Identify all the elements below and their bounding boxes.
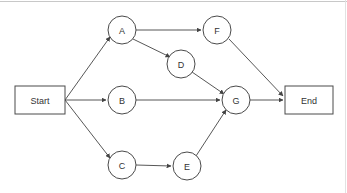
node-C[interactable]: C <box>108 151 136 179</box>
flow-diagram-svg: StartAFDBGCEEnd <box>0 0 347 193</box>
edge-start-to-C <box>65 100 110 158</box>
edge-D-to-G <box>192 72 224 94</box>
node-A[interactable]: A <box>108 16 136 44</box>
node-start[interactable]: Start <box>15 86 65 114</box>
node-label-F: F <box>214 26 220 36</box>
node-label-C: C <box>119 161 126 171</box>
node-label-G: G <box>232 96 239 106</box>
node-D[interactable]: D <box>167 50 195 78</box>
nodes-layer: StartAFDBGCEEnd <box>15 16 333 180</box>
node-end[interactable]: End <box>285 86 333 114</box>
node-label-D: D <box>178 60 185 70</box>
flow-diagram-canvas: StartAFDBGCEEnd <box>0 0 347 193</box>
edge-E-to-G <box>196 110 226 156</box>
node-label-start: Start <box>30 96 50 106</box>
node-label-end: End <box>301 96 317 106</box>
edge-C-to-E <box>136 165 171 166</box>
node-G[interactable]: G <box>222 86 250 114</box>
node-E[interactable]: E <box>173 152 201 180</box>
node-label-B: B <box>119 96 125 106</box>
node-label-A: A <box>119 26 125 36</box>
node-label-E: E <box>184 162 190 172</box>
edge-A-to-D <box>133 39 170 57</box>
node-F[interactable]: F <box>203 16 231 44</box>
edge-start-to-A <box>65 37 110 100</box>
node-B[interactable]: B <box>108 86 136 114</box>
